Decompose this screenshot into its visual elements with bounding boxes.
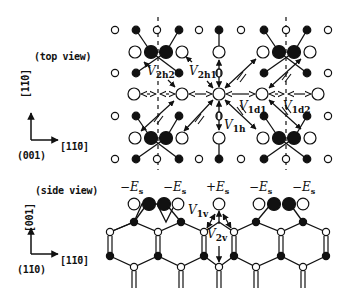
side-axis-arrows <box>31 228 58 254</box>
atoms-row-7 <box>111 155 331 163</box>
diagram-canvas <box>0 0 349 298</box>
atoms-row-1 <box>111 26 331 34</box>
top-view-lattice <box>111 17 331 170</box>
side-view-lattice <box>108 204 328 288</box>
top-axis-arrows <box>31 113 58 140</box>
